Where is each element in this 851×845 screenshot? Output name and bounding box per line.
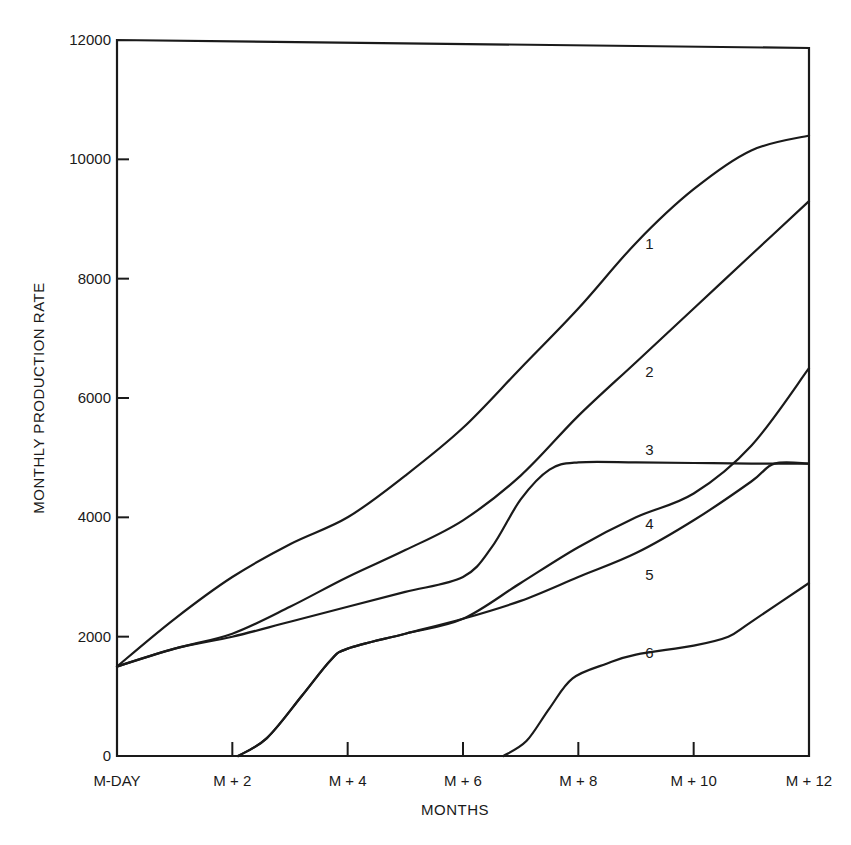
x-tick-label: M + 12 xyxy=(786,772,832,789)
plot-frame xyxy=(117,40,809,756)
y-tick-label: 0 xyxy=(103,747,111,764)
plot-border xyxy=(117,40,809,756)
curve-label-6: 6 xyxy=(645,644,653,661)
y-tick-label: 6000 xyxy=(78,389,111,406)
y-tick-label: 8000 xyxy=(78,270,111,287)
y-tick-label: 4000 xyxy=(78,508,111,525)
curve-3 xyxy=(117,462,809,667)
y-tick-label: 10000 xyxy=(69,150,111,167)
curve-1 xyxy=(117,136,809,667)
curve-6 xyxy=(503,583,809,756)
curves xyxy=(117,136,809,757)
curve-label-1: 1 xyxy=(645,235,653,252)
x-tick-label: M + 4 xyxy=(329,772,367,789)
x-tick-label: M + 2 xyxy=(213,772,251,789)
x-tick-label: M + 10 xyxy=(671,772,717,789)
curve-label-2: 2 xyxy=(645,363,653,380)
curve-5 xyxy=(238,462,809,756)
y-tick-label: 2000 xyxy=(78,628,111,645)
curve-4 xyxy=(238,368,809,756)
x-tick-label: M + 8 xyxy=(559,772,597,789)
curve-labels: 123456 xyxy=(645,235,653,661)
curve-label-5: 5 xyxy=(645,566,653,583)
x-axis-ticks: M-DAYM + 2M + 4M + 6M + 8M + 10M + 12 xyxy=(93,742,832,789)
production-rate-chart: 020004000600080001000012000 M-DAYM + 2M … xyxy=(0,0,851,845)
x-tick-label: M + 6 xyxy=(444,772,482,789)
x-axis-title: MONTHS xyxy=(421,801,489,818)
curve-label-3: 3 xyxy=(645,441,653,458)
curve-2 xyxy=(117,201,809,666)
y-axis-title: MONTHLY PRODUCTION RATE xyxy=(30,282,47,514)
y-axis-ticks: 020004000600080001000012000 xyxy=(69,31,129,764)
y-tick-label: 12000 xyxy=(69,31,111,48)
x-tick-label: M-DAY xyxy=(93,772,140,789)
curve-label-4: 4 xyxy=(645,515,653,532)
